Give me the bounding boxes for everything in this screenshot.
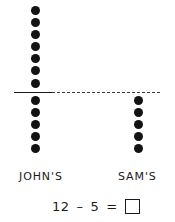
- counter-dot: [31, 108, 40, 117]
- counter-dot: [31, 6, 40, 15]
- johns-dots-below-line: [31, 96, 40, 156]
- equation-minus-operator: –: [77, 200, 84, 213]
- counter-dot: [31, 30, 40, 39]
- counter-dot: [134, 132, 143, 141]
- divider-line-solid: [14, 92, 52, 93]
- counter-dot: [31, 18, 40, 27]
- counter-dot: [31, 120, 40, 129]
- johns-dots-above-line: [31, 6, 40, 91]
- counter-dot: [31, 54, 40, 63]
- answer-input-box[interactable]: [125, 199, 140, 214]
- counter-dot: [134, 96, 143, 105]
- counter-dot: [31, 96, 40, 105]
- sams-group-label: SAM'S: [118, 170, 157, 183]
- counter-dot: [31, 79, 40, 88]
- equation-row: 12 – 5 =: [52, 199, 140, 214]
- counter-dot: [134, 120, 143, 129]
- counter-dot: [31, 66, 40, 75]
- counter-dot: [134, 108, 143, 117]
- sams-dots-below-line: [134, 96, 143, 156]
- equation-equals-sign: =: [106, 200, 117, 213]
- counter-dot: [31, 144, 40, 153]
- equation-minuend: 12: [52, 200, 70, 213]
- equation-subtrahend: 5: [91, 200, 100, 213]
- johns-group-label: JOHN'S: [19, 170, 63, 183]
- subtraction-worksheet: JOHN'S SAM'S 12 – 5 =: [0, 0, 175, 222]
- counter-dot: [31, 132, 40, 141]
- counter-dot: [134, 144, 143, 153]
- divider-line-dashed: [52, 92, 160, 93]
- counter-dot: [31, 42, 40, 51]
